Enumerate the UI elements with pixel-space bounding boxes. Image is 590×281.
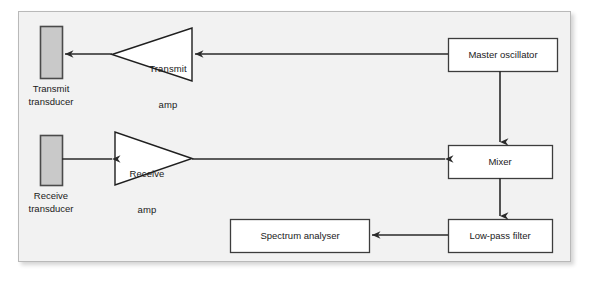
receive-amp-label: Receive amp	[118, 144, 176, 240]
spectrum-analyser-label: Spectrum analyser	[220, 230, 380, 242]
transmit-transducer-caption-line2: transducer	[6, 96, 96, 109]
transmit-transducer-caption: Transmit transducer	[6, 83, 96, 108]
master-oscillator-label: Master oscillator	[423, 49, 583, 61]
transmit-amp-label-line2: amp	[138, 99, 198, 111]
diagram-canvas: Transmit amp Transmit transducer Master …	[0, 0, 590, 281]
receive-amp-label-line2: amp	[118, 204, 176, 216]
receive-transducer-caption-line2: transducer	[6, 203, 96, 216]
transmit-transducer-caption-line1: Transmit	[6, 83, 96, 96]
receive-transducer-caption-line1: Receive	[6, 190, 96, 203]
receive-transducer-shape	[41, 136, 63, 186]
transmit-amp-label: Transmit amp	[138, 39, 198, 135]
transmit-transducer-shape	[41, 27, 63, 79]
receive-transducer-caption: Receive transducer	[6, 190, 96, 215]
low-pass-filter-label: Low-pass filter	[420, 230, 580, 242]
transmit-amp-label-line1: Transmit	[138, 63, 198, 75]
receive-amp-label-line1: Receive	[118, 168, 176, 180]
mixer-label: Mixer	[420, 156, 580, 168]
